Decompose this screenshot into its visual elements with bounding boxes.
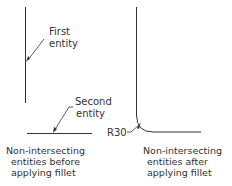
second-entity-leader (54, 107, 69, 131)
left-caption-3: applying fillet (11, 167, 76, 178)
right-caption-3: applying fillet (147, 167, 212, 178)
filleted-entities (137, 7, 202, 132)
right-figure: R30 Non-intersecting entities after appl… (107, 7, 222, 178)
fillet-diagram: First entity Second entity Non-intersect… (0, 0, 232, 186)
left-caption-2: entities before (11, 156, 80, 167)
radius-label: R30 (107, 127, 127, 138)
first-entity-leader (28, 39, 44, 60)
radius-leader (131, 125, 139, 132)
second-entity-label-1: Second (75, 96, 112, 107)
first-entity-label-1: First (49, 26, 70, 37)
left-caption-1: Non-intersecting (6, 145, 85, 156)
first-entity-arrow-icon (26, 56, 30, 62)
second-entity-label-2: entity (76, 108, 105, 119)
right-caption-2: entities after (147, 156, 208, 167)
right-caption-1: Non-intersecting (143, 145, 222, 156)
left-figure: First entity Second entity Non-intersect… (6, 7, 112, 178)
first-entity-label-2: entity (49, 38, 78, 49)
